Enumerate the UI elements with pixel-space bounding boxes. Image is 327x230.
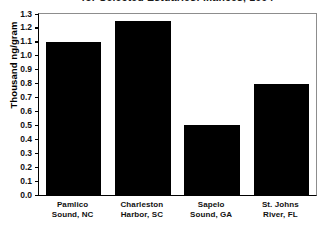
y-tick-label: 0.0 [20,190,32,201]
bar-rect [46,42,101,195]
x-axis-category-label: CharlestonHarbor, SC [107,200,176,220]
bar-rect [254,84,309,195]
y-tick-label: 0.6 [20,106,32,117]
y-tick-label: 0.7 [20,92,32,103]
x-axis-category-label: PamlicoSound, NC [38,200,107,220]
x-axis-category-line: Harbor, SC [107,210,176,220]
x-axis-categories: PamlicoSound, NCCharlestonHarbor, SCSape… [38,200,317,228]
y-tick-label: 0.5 [20,120,32,131]
y-tick-label: 0.2 [20,162,32,173]
y-tick-label: 0.9 [20,64,32,75]
x-axis-category-line: Sound, GA [177,210,246,220]
y-tick-label: 0.8 [20,78,32,89]
x-axis-category-line: Sound, NC [38,210,107,220]
y-tick-label: 1.3 [20,9,32,20]
bar [115,14,170,195]
x-axis-category-label: SapeloSound, GA [177,200,246,220]
bar [46,14,101,195]
bar-rect [115,21,170,195]
bars-layer [39,14,316,195]
y-tick-label: 1.0 [20,50,32,61]
plot-area: 1.31.21.11.00.90.80.70.60.50.40.30.20.10… [38,13,317,196]
x-axis-category-line: St. Johns [246,200,315,210]
bar-chart-figure: for Selected Estuaries: ...ances, 1994 T… [0,0,327,230]
x-axis-category-label: St. JohnsRiver, FL [246,200,315,220]
y-tick-label: 0.3 [20,148,32,159]
bar [184,14,239,195]
y-tick-label: 1.2 [20,22,32,33]
x-axis-category-line: Charleston [107,200,176,210]
y-tick-label: 1.1 [20,36,32,47]
x-axis-category-line: Pamlico [38,200,107,210]
chart-title: for Selected Estuaries: ...ances, 1994 [36,0,319,3]
y-tick-label: 0.4 [20,134,32,145]
x-axis-category-line: Sapelo [177,200,246,210]
bar-rect [184,125,239,195]
x-axis-category-line: River, FL [246,210,315,220]
y-tick-label: 0.1 [20,176,32,187]
bar [254,14,309,195]
